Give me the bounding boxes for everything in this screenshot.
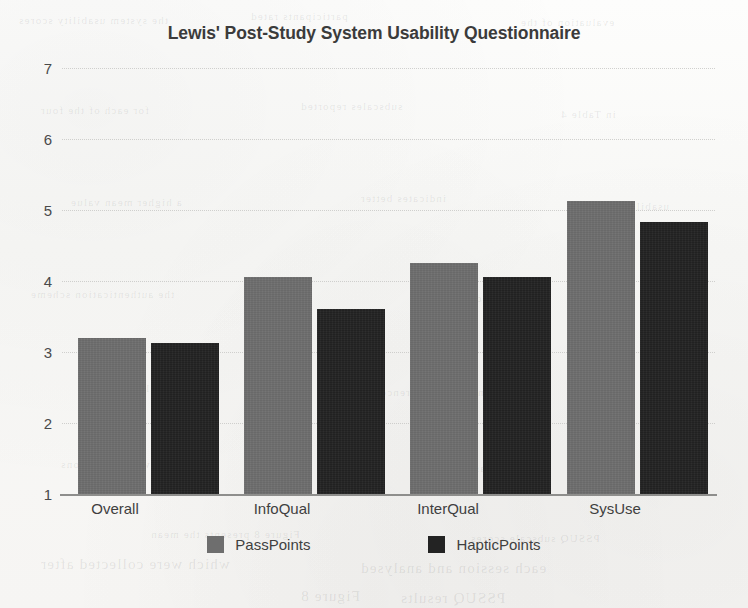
legend-label: HapticPoints <box>456 536 540 553</box>
chart-page: the system usability scoresparticipants … <box>0 0 748 608</box>
x-axis-tick-label-sysuse: SysUse <box>589 500 641 517</box>
bar-interqual-hapticpoints <box>483 277 551 494</box>
legend-item-hapticpoints: HapticPoints <box>428 536 540 553</box>
chart-legend: PassPointsHapticPoints <box>0 536 748 553</box>
bar-chart: Lewis' Post-Study System Usability Quest… <box>0 0 748 608</box>
bar-overall-passpoints <box>78 338 146 494</box>
x-axis-tick-label-interqual: InterQual <box>417 500 479 517</box>
chart-title: Lewis' Post-Study System Usability Quest… <box>0 23 748 44</box>
gridline <box>62 68 715 69</box>
y-axis-tick-label: 7 <box>12 60 52 77</box>
bar-sysuse-hapticpoints <box>640 222 708 494</box>
x-axis-line <box>60 494 717 496</box>
legend-swatch-icon <box>207 536 224 553</box>
y-axis-tick-label: 3 <box>12 344 52 361</box>
bar-overall-hapticpoints <box>151 343 219 494</box>
legend-swatch-icon <box>428 536 445 553</box>
gridline <box>62 139 715 140</box>
plot-area <box>62 68 715 494</box>
bar-sysuse-passpoints <box>567 201 635 494</box>
x-axis-tick-label-overall: Overall <box>91 500 139 517</box>
bar-infoqual-hapticpoints <box>317 309 385 494</box>
y-axis-tick-label: 4 <box>12 273 52 290</box>
legend-item-passpoints: PassPoints <box>207 536 310 553</box>
y-axis-tick-label: 5 <box>12 202 52 219</box>
y-axis-tick-label: 6 <box>12 131 52 148</box>
y-axis-tick-label: 1 <box>12 486 52 503</box>
bar-interqual-passpoints <box>410 263 478 494</box>
bar-infoqual-passpoints <box>244 277 312 494</box>
y-axis-tick-label: 2 <box>12 415 52 432</box>
legend-label: PassPoints <box>235 536 310 553</box>
x-axis-tick-label-infoqual: InfoQual <box>254 500 311 517</box>
